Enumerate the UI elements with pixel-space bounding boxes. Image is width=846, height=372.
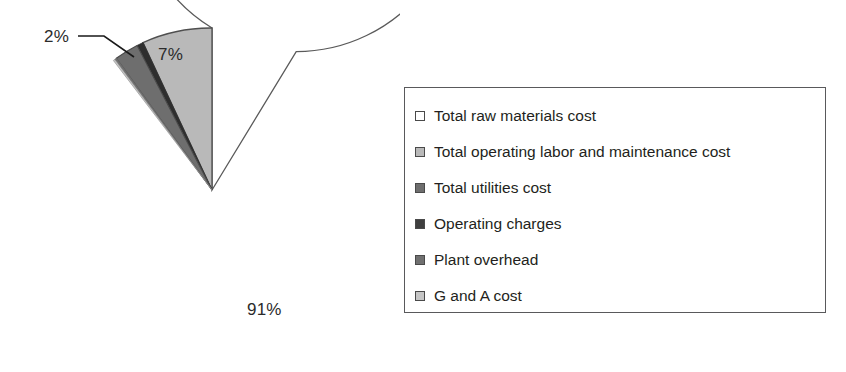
pie-chart-figure: 2% 7% 91% Total raw materials cost Total… (0, 0, 846, 372)
legend-item-label: Total utilities cost (434, 179, 551, 197)
legend-item-operating-charges[interactable]: Operating charges (415, 206, 825, 242)
legend-swatch-icon (415, 291, 425, 301)
legend-item-label: Plant overhead (434, 251, 538, 269)
legend-swatch-icon (415, 219, 425, 229)
pie-chart-plot-area: 2% 7% 91% (0, 0, 400, 372)
legend-item-label: Operating charges (434, 215, 562, 233)
legend-swatch-icon (415, 183, 425, 193)
legend-item-plant-overhead[interactable]: Plant overhead (415, 242, 825, 278)
pie-label-7-percent: 7% (158, 45, 183, 65)
legend-swatch-icon (415, 255, 425, 265)
pie-chart-svg (0, 0, 400, 372)
pie-label-91-percent: 91% (247, 300, 282, 320)
legend-item-label: Total raw materials cost (434, 107, 596, 125)
legend-item-total-raw-materials-cost[interactable]: Total raw materials cost (415, 98, 825, 134)
legend-item-total-utilities-cost[interactable]: Total utilities cost (415, 170, 825, 206)
pie-label-2-percent: 2% (44, 27, 69, 47)
legend-swatch-icon (415, 111, 425, 121)
legend-item-label: Total operating labor and maintenance co… (434, 143, 730, 161)
legend-item-label: G and A cost (434, 287, 522, 305)
legend-item-g-and-a-cost[interactable]: G and A cost (415, 278, 825, 314)
chart-legend: Total raw materials cost Total operating… (404, 87, 826, 313)
legend-item-total-operating-labor-and-maintenance-cost[interactable]: Total operating labor and maintenance co… (415, 134, 825, 170)
legend-swatch-icon (415, 147, 425, 157)
